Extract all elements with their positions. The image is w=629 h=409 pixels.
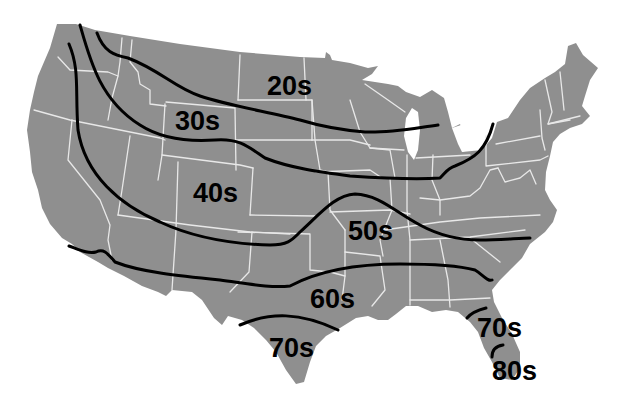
us-temperature-map: 20s 30s 40s 50s 60s 70s 70s 80s [0, 0, 629, 409]
zone-label-50s: 50s [348, 216, 393, 246]
zone-label-20s: 20s [267, 71, 312, 101]
zone-label-60s: 60s [310, 284, 355, 314]
zone-label-70s-texas: 70s [269, 333, 314, 363]
zone-label-30s: 30s [175, 106, 220, 136]
zone-label-70s-florida: 70s [477, 313, 522, 343]
zone-label-80s-florida: 80s [492, 356, 537, 386]
zone-label-40s: 40s [193, 178, 238, 208]
